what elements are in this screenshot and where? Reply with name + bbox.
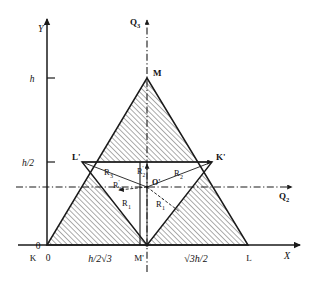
point-label-Kprime: K' (216, 152, 226, 162)
y-axis (47, 19, 55, 245)
radius-label-R1: R 1 (122, 198, 131, 210)
radius-label-R1p-prime-mark: ' (162, 196, 163, 203)
radius-label-R2-prime: R 2 ' (137, 165, 146, 178)
x-tick-label-root3h-over-2: √3h/2 (184, 253, 207, 264)
radius-label-R2: R 2 (174, 168, 183, 180)
point-Mp-dot (145, 243, 148, 246)
radius-label-R2-subscript: 2 (180, 174, 183, 180)
q2-label-group: Q 2 (279, 191, 289, 203)
x-tick-label-K: K (30, 253, 37, 263)
q2-label-subscript: 2 (286, 196, 289, 203)
x-axis-label: X (283, 250, 291, 261)
y-tick-label-h-half: h/2 (22, 158, 34, 168)
point-label-Lprime: L' (72, 152, 81, 162)
radius-label-R2p-prime-mark: ' (143, 165, 144, 171)
radius-label-R1-prime: R 1 ' (156, 196, 165, 211)
y-tick-label-zero: 0 (36, 241, 41, 251)
x-tick-label-Mprime: M' (134, 253, 144, 263)
radius-label-R1-subscript: 1 (128, 204, 131, 210)
radius-label-R2p-subscript: 2 (143, 172, 146, 178)
point-label-M: M (153, 68, 162, 78)
geometry-diagram-svg: Y X Q 3 Q 2 h h/2 0 K 0 h/2√3 M' √3h/2 L… (0, 0, 322, 289)
x-tick-label-L: L (246, 253, 252, 263)
q3-label-subscript: 3 (137, 22, 141, 29)
radius-label-R3-prime: R 3 ' (113, 179, 122, 192)
x-tick-label-h-over-2root3: h/2√3 (88, 253, 111, 264)
figure-container: Y X Q 3 Q 2 h h/2 0 K 0 h/2√3 M' √3h/2 L… (0, 0, 322, 289)
radius-label-R3: R 3 (104, 167, 113, 179)
y-tick-label-h: h (30, 74, 35, 84)
point-label-Oprime: O' (152, 178, 160, 187)
radius-label-R3p-subscript: 3 (119, 186, 122, 192)
x-tick-label-zero: 0 (46, 253, 51, 263)
point-Op-dot (146, 186, 148, 188)
q3-label-group: Q 3 (130, 17, 141, 29)
radius-label-R3p-prime-mark: ' (119, 179, 120, 185)
radius-label-R1p-subscript: 1 (162, 205, 165, 211)
y-axis-label: Y (38, 23, 45, 34)
radius-label-R3-subscript: 3 (110, 173, 113, 179)
q3-label: Q (130, 17, 137, 27)
q2-label: Q (279, 191, 286, 201)
